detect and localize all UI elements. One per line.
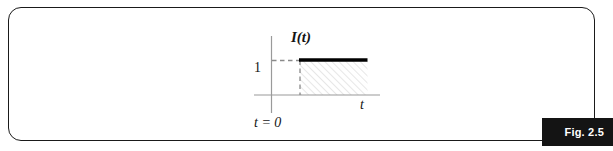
figure-number-badge: Fig. 2.5 [542,118,613,146]
function-label: I(t) [291,30,311,45]
origin-label: t = 0 [254,116,281,130]
shaded-area [300,61,368,96]
figure-frame: I(t) 1 t t = 0 [8,7,595,141]
x-axis-label: t [360,98,364,112]
y-tick-label: 1 [254,61,261,75]
figure-number-label: Fig. 2.5 [565,126,605,138]
